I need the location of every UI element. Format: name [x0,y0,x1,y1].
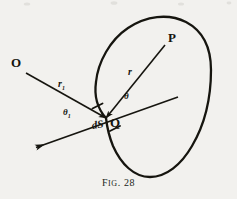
tangent-line-through-Q [36,97,178,148]
label-point-Q: Q [110,116,120,129]
label-angle-theta: θ [124,92,129,101]
label-point-P: P [168,31,176,44]
scan-artifacts [24,1,232,5]
label-radius-r: r [128,67,132,77]
label-point-O: O [11,56,21,69]
ray-P-to-Q [106,45,165,118]
figure-drawing [0,0,237,199]
figure-caption: FIG. 28 [0,177,237,188]
label-radius-r1: r1 [58,79,65,91]
caption-rest: . 28 [118,177,135,188]
label-surface-element-dS: dS [91,118,104,131]
closed-surface-contour [95,17,211,177]
label-radius-r1-sub: 1 [62,85,65,91]
label-angle-theta1: θ1 [63,108,71,119]
caption-smallcaps: IG [108,179,118,188]
label-angle-theta1-sub: 1 [68,113,71,119]
figure-28: O P Q dS r1 r θ1 θ FIG. 28 [0,0,237,199]
